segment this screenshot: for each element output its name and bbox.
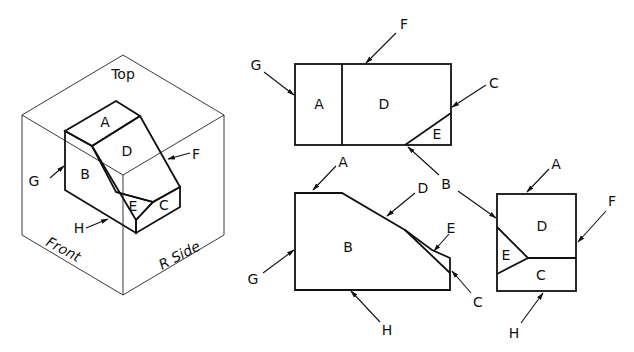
side-edge-label-a: A — [551, 156, 561, 172]
front-face-label-b: B — [343, 239, 353, 255]
front-leader-d — [387, 193, 415, 216]
side-face-label-c: C — [536, 267, 546, 283]
iso-face-label-e: E — [129, 198, 138, 214]
side-leader-f — [578, 211, 606, 242]
iso-face-label-c: C — [159, 197, 169, 213]
iso-leader-g — [50, 166, 64, 178]
front-leader-c — [452, 271, 471, 293]
side-view: D E C A F H — [497, 156, 616, 341]
front-edge-label-h: H — [382, 322, 393, 338]
side-face-label-e: E — [502, 247, 511, 263]
iso-face-label-a: A — [100, 114, 110, 130]
iso-edge-label-h: H — [74, 220, 85, 236]
shared-face-label-b: B — [441, 176, 451, 192]
iso-face-label-d: D — [122, 143, 133, 159]
front-leader-g — [263, 250, 294, 273]
top-edge-label-c: C — [489, 75, 499, 91]
b-leader-side — [458, 191, 496, 218]
top-leader-c — [452, 85, 486, 107]
box-label-front: Front — [44, 234, 84, 266]
iso-face-label-b: B — [80, 166, 90, 182]
box-label-side: R Side — [156, 238, 203, 273]
top-leader-g — [264, 72, 294, 95]
front-edge-label-d: D — [418, 180, 429, 196]
side-edge-label-h: H — [509, 325, 520, 341]
iso-edge-label-f: F — [192, 146, 200, 162]
glass-box — [22, 55, 224, 295]
front-leader-e — [434, 234, 449, 251]
box-label-top: Top — [110, 66, 135, 82]
front-leader-h — [351, 291, 380, 322]
iso-leader-h — [86, 219, 108, 228]
b-leader-top — [408, 147, 439, 175]
side-edge-label-f: F — [608, 193, 616, 209]
front-edge-label-e: E — [447, 220, 456, 236]
top-edge-label-g: G — [251, 57, 262, 73]
iso-edge-label-g: G — [29, 173, 40, 189]
iso-leader-f — [168, 153, 190, 159]
front-edge-label-g: G — [248, 271, 259, 287]
top-view: A D E G F C — [251, 16, 500, 145]
top-edge-label-f: F — [400, 16, 408, 32]
top-leader-f — [366, 33, 396, 63]
top-face-label-d: D — [379, 96, 390, 112]
isometric-view: Top Front R Side A D B E C G F H — [22, 55, 224, 295]
side-leader-a — [527, 169, 549, 192]
side-face-label-d: D — [537, 218, 548, 234]
top-face-label-a: A — [314, 96, 324, 112]
front-edge-label-c: C — [473, 294, 483, 310]
front-edge-label-a: A — [338, 154, 348, 170]
side-leader-h — [521, 293, 543, 323]
top-face-label-e: E — [433, 126, 442, 142]
front-leader-a — [313, 166, 336, 190]
orthographic-projection-diagram: Top Front R Side A D B E C G F H A D E G… — [0, 0, 634, 352]
